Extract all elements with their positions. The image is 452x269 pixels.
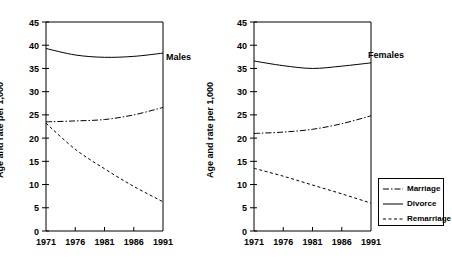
y-tick-label: 30 [237,87,247,97]
legend: Marriage Divorce Remarriage [378,178,444,226]
y-tick-label: 15 [237,157,247,167]
series-line-marriage [254,116,371,134]
y-tick-label: 40 [237,41,247,51]
series-line-remarriage [254,168,371,203]
legend-item-marriage: Marriage [379,181,443,196]
series-line-remarriage [46,123,163,201]
x-tick-label: 1991 [153,237,173,247]
y-tick-label: 0 [34,227,39,237]
legend-item-remarriage: Remarriage [379,211,443,226]
series-line-marriage [46,107,163,121]
plot-frame [46,22,163,231]
series-line-divorce [254,61,371,68]
legend-swatch-divorce [382,199,404,209]
panel-females: Age and rate per 1,000 05101520253035404… [208,0,434,269]
x-tick-label: 1976 [65,237,85,247]
y-tick-label: 45 [29,18,39,28]
y-tick-label: 5 [34,203,39,213]
plot-area-females: 05101520253035404519711976198119861991 [208,0,434,269]
y-tick-label: 5 [242,203,247,213]
plot-area-males: 05101520253035404519711976198119861991 [0,0,226,269]
x-tick-label: 1991 [361,237,381,247]
y-tick-label: 15 [29,157,39,167]
series-line-divorce [46,48,163,57]
legend-item-divorce: Divorce [379,196,443,211]
y-tick-label: 20 [29,134,39,144]
legend-label-remarriage: Remarriage [407,214,451,223]
y-tick-label: 20 [237,134,247,144]
legend-swatch-remarriage [382,214,404,224]
y-tick-label: 0 [242,227,247,237]
legend-label-divorce: Divorce [407,199,436,208]
y-tick-label: 25 [237,110,247,120]
x-tick-label: 1981 [302,237,322,247]
y-tick-label: 25 [29,110,39,120]
x-tick-label: 1981 [94,237,114,247]
legend-label-marriage: Marriage [407,184,440,193]
panel-annotation-females: Females [368,50,404,60]
y-tick-label: 45 [237,18,247,28]
chart-container: Age and rate per 1,000 05101520253035404… [0,0,452,269]
x-tick-label: 1986 [124,237,144,247]
panel-males: Age and rate per 1,000 05101520253035404… [0,0,226,269]
y-tick-label: 10 [237,180,247,190]
x-tick-label: 1971 [36,237,56,247]
y-tick-label: 30 [29,87,39,97]
plot-frame [254,22,371,231]
legend-swatch-marriage [382,184,404,194]
x-tick-label: 1986 [332,237,352,247]
y-tick-label: 40 [29,41,39,51]
y-tick-label: 35 [29,64,39,74]
y-tick-label: 10 [29,180,39,190]
x-tick-label: 1976 [273,237,293,247]
panel-annotation-males: Males [166,52,191,62]
x-tick-label: 1971 [244,237,264,247]
y-tick-label: 35 [237,64,247,74]
